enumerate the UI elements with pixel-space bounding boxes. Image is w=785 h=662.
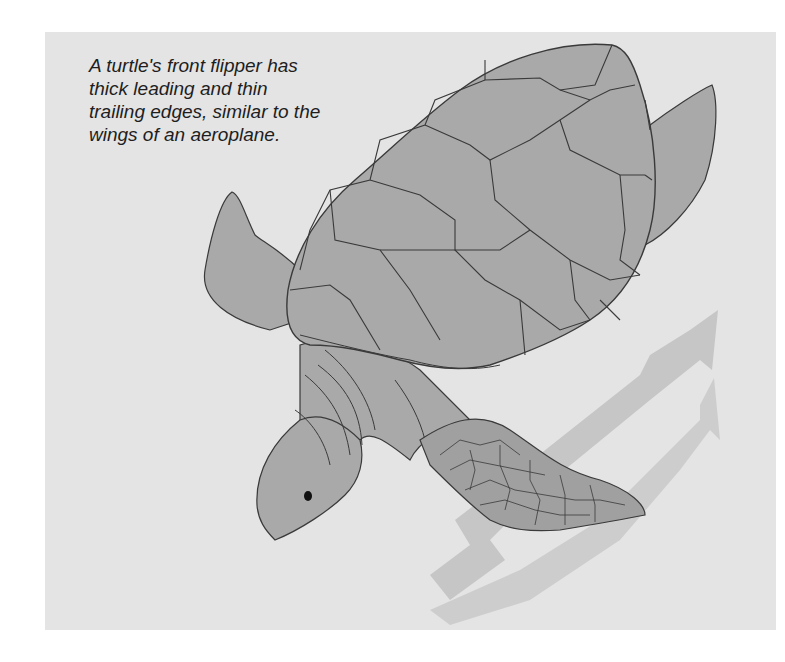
shell	[287, 44, 655, 368]
eye	[304, 491, 312, 501]
left-rear-flipper	[204, 192, 300, 330]
turtle-illustration	[0, 0, 785, 662]
front-flipper	[420, 419, 645, 531]
